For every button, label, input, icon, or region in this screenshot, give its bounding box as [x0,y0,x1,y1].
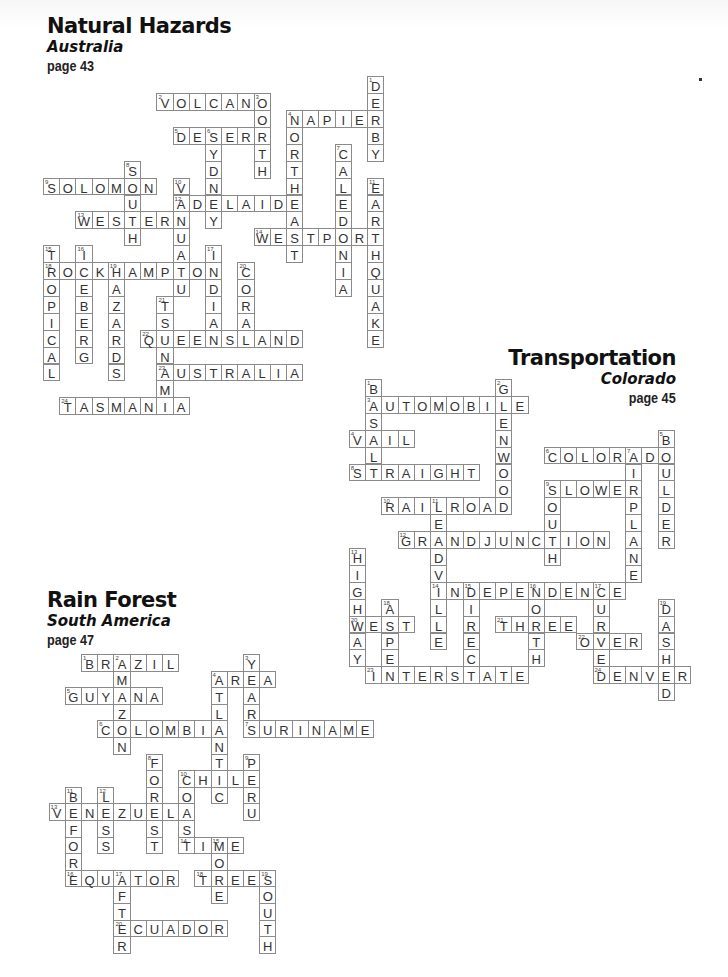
crossword-cell[interactable]: V [593,633,610,651]
crossword-cell[interactable]: R [227,671,244,689]
crossword-cell[interactable]: H [286,178,303,196]
crossword-cell[interactable]: P [318,110,335,128]
crossword-cell[interactable]: O [259,886,276,904]
crossword-cell[interactable]: 5G [65,687,82,705]
crossword-cell[interactable]: U [259,720,276,738]
crossword-cell[interactable]: N [173,211,190,229]
crossword-cell[interactable]: H [511,616,528,634]
crossword-cell[interactable]: I [414,464,431,482]
crossword-cell[interactable]: K [367,313,384,331]
crossword-cell[interactable]: T [254,144,271,162]
crossword-cell[interactable]: I [254,195,271,213]
crossword-cell[interactable]: L [162,654,179,672]
crossword-cell[interactable]: T [398,396,415,414]
crossword-cell[interactable]: U [81,687,98,705]
crossword-cell[interactable]: U [544,514,561,532]
crossword-cell[interactable]: E [560,582,577,600]
crossword-cell[interactable]: E [146,803,163,821]
crossword-cell[interactable]: T [544,531,561,549]
crossword-cell[interactable]: R [286,144,303,162]
crossword-cell[interactable]: H [124,228,141,246]
crossword-cell[interactable]: T [113,903,130,921]
crossword-cell[interactable]: E [75,279,92,297]
crossword-cell[interactable]: 12G [398,531,415,549]
crossword-cell[interactable]: 3O [254,93,271,111]
crossword-cell[interactable]: L [430,616,447,634]
crossword-cell[interactable]: M [156,380,173,398]
crossword-cell[interactable]: V [641,666,658,684]
crossword-cell[interactable]: C [211,787,228,805]
crossword-cell[interactable]: 2A [113,654,130,672]
crossword-cell[interactable]: S [381,616,398,634]
crossword-cell[interactable]: E [560,616,577,634]
crossword-cell[interactable]: E [92,211,109,229]
crossword-cell[interactable]: U [156,330,173,348]
crossword-cell[interactable]: E [625,565,642,583]
crossword-cell[interactable]: A [430,531,447,549]
crossword-cell[interactable]: T [124,211,141,229]
crossword-cell[interactable]: 15T [43,245,60,263]
crossword-cell[interactable]: A [625,531,642,549]
crossword-cell[interactable]: E [367,330,384,348]
crossword-cell[interactable]: R [211,870,228,888]
crossword-cell[interactable]: A [398,497,415,515]
crossword-cell[interactable]: 16N [528,582,545,600]
crossword-cell[interactable]: E [243,770,260,788]
crossword-cell[interactable]: R [446,497,463,515]
crossword-cell[interactable]: B [178,720,195,738]
crossword-cell[interactable]: 17A [113,870,130,888]
crossword-cell[interactable]: D [189,195,206,213]
crossword-cell[interactable]: Z [108,296,125,314]
crossword-cell[interactable]: S [365,413,382,431]
crossword-cell[interactable]: U [593,599,610,617]
crossword-cell[interactable]: S [658,633,675,651]
crossword-cell[interactable]: 19D [658,599,675,617]
crossword-cell[interactable]: S [178,820,195,838]
crossword-cell[interactable]: A [108,279,125,297]
crossword-cell[interactable]: 9S [43,178,60,196]
crossword-cell[interactable]: N [625,548,642,566]
crossword-cell[interactable]: E [609,480,626,498]
crossword-cell[interactable]: D [544,582,561,600]
crossword-cell[interactable]: D [205,279,222,297]
crossword-cell[interactable]: L [43,364,60,382]
crossword-cell[interactable]: A [124,262,141,280]
crossword-cell[interactable]: 24T [59,397,76,415]
crossword-cell[interactable]: H [528,649,545,667]
crossword-cell[interactable]: N [625,666,642,684]
crossword-cell[interactable]: B [75,296,92,314]
crossword-cell[interactable]: N [113,737,130,755]
crossword-cell[interactable]: T [130,870,147,888]
crossword-cell[interactable]: U [97,870,114,888]
crossword-cell[interactable]: A [286,364,303,382]
crossword-cell[interactable]: L [211,704,228,722]
crossword-cell[interactable]: 18A [381,599,398,617]
crossword-cell[interactable]: R [162,870,179,888]
crossword-cell[interactable]: W [495,447,512,465]
crossword-cell[interactable]: R [65,853,82,871]
crossword-cell[interactable]: S [286,228,303,246]
crossword-cell[interactable]: M [340,720,357,738]
crossword-cell[interactable]: O [178,787,195,805]
crossword-cell[interactable]: E [227,870,244,888]
crossword-cell[interactable]: J [479,531,496,549]
crossword-cell[interactable]: 14T [178,837,195,855]
crossword-cell[interactable]: R [658,531,675,549]
crossword-cell[interactable]: C [205,93,222,111]
crossword-cell[interactable]: R [243,787,260,805]
crossword-cell[interactable]: 11L [430,497,447,515]
crossword-cell[interactable]: R [243,704,260,722]
crossword-cell[interactable]: A [173,245,190,263]
crossword-cell[interactable]: Y [205,211,222,229]
crossword-cell[interactable]: S [189,364,206,382]
crossword-cell[interactable]: A [349,633,366,651]
crossword-cell[interactable]: D [495,497,512,515]
crossword-cell[interactable]: 11E [367,178,384,196]
crossword-cell[interactable]: O [446,396,463,414]
crossword-cell[interactable]: O [335,228,352,246]
crossword-cell[interactable]: 12L [97,787,114,805]
crossword-cell[interactable]: E [658,666,675,684]
crossword-cell[interactable]: Q [367,262,384,280]
crossword-cell[interactable]: 13V [49,803,66,821]
crossword-cell[interactable]: R [75,330,92,348]
